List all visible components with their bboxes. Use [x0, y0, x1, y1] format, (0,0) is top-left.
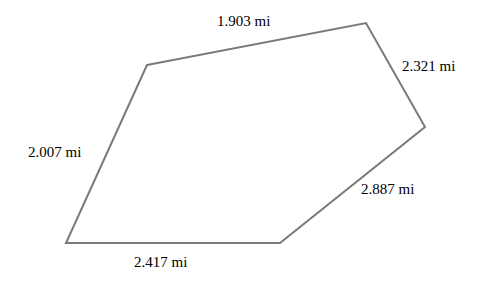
side-label-left: 2.007 mi: [28, 145, 81, 160]
side-label-upper-right: 2.321 mi: [402, 59, 455, 74]
side-label-top: 1.903 mi: [217, 14, 270, 29]
polygon-outline: [66, 23, 425, 243]
side-label-lower-right: 2.887 mi: [361, 182, 414, 197]
polygon-figure: 1.903 mi 2.321 mi 2.887 mi 2.007 mi 2.41…: [0, 0, 485, 281]
polygon-canvas: [0, 0, 485, 281]
side-label-bottom: 2.417 mi: [134, 255, 187, 270]
